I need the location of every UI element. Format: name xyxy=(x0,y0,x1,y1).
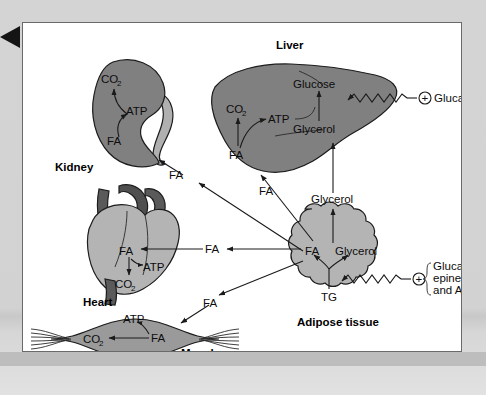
transport-fa-to-liver: FA xyxy=(259,175,313,241)
fa-to-heart-label: FA xyxy=(205,243,219,255)
liver-name-label: Liver xyxy=(276,39,304,51)
adipose-stimulus-line3: and ACTH xyxy=(433,284,461,296)
heart-co2-subscript: 2 xyxy=(131,284,136,293)
liver-atp-label: ATP xyxy=(268,113,290,125)
adipose-stimulus-line1: Glucagon, xyxy=(433,260,461,272)
kidney-fa-label: FA xyxy=(107,135,121,147)
muscle-name-label: Muscle xyxy=(181,347,220,351)
heart-co2-label: CO xyxy=(115,278,132,290)
adipose-tg-label: TG xyxy=(321,291,337,303)
liver-fa-label: FA xyxy=(229,149,243,161)
organ-liver: FA ATP CO 2 Glucose Glycerol Liver xyxy=(212,39,397,172)
adipose-stimulus-line2: epinephrine, xyxy=(433,272,461,284)
figure-panel: FA ATP CO 2 Kidney FA ATP xyxy=(22,22,462,352)
organ-kidney: FA ATP CO 2 Kidney xyxy=(55,60,173,173)
adipose-name-label: Adipose tissue xyxy=(297,316,379,328)
muscle-atp-label: ATP xyxy=(123,313,145,325)
liver-stimulus-label: Glucagon xyxy=(434,92,461,104)
organ-adipose-tissue: FA Glycerol TG Adipose tissue xyxy=(289,202,379,328)
liver-glucose-label: Glucose xyxy=(293,78,335,90)
organ-muscle: FA ATP CO 2 Muscle xyxy=(31,313,239,351)
muscle-co2-subscript: 2 xyxy=(99,339,104,348)
fa-to-muscle-label: FA xyxy=(203,297,217,309)
left-pointing-triangle-icon xyxy=(0,26,20,48)
kidney-co2-subscript: 2 xyxy=(117,79,122,88)
adipose-stimulus-sign: + xyxy=(416,273,423,285)
adipose-fa-label: FA xyxy=(305,245,319,257)
metabolism-diagram: FA ATP CO 2 Kidney FA ATP xyxy=(23,23,461,351)
muscle-co2-label: CO xyxy=(83,333,100,345)
kidney-co2-label: CO xyxy=(101,73,118,85)
transport-fa-to-muscle: FA xyxy=(181,261,303,323)
heart-name-label: Heart xyxy=(83,296,113,308)
liver-stimulus-sign: + xyxy=(422,92,429,104)
liver-co2-subscript: 2 xyxy=(242,109,247,118)
organ-heart: FA ATP CO 2 Heart xyxy=(83,185,179,308)
liver-glycerol-label: Glycerol xyxy=(293,123,335,135)
transport-fa-to-kidney: FA xyxy=(159,160,303,251)
kidney-name-label: Kidney xyxy=(55,161,94,173)
muscle-fa-label: FA xyxy=(151,332,165,344)
adipose-glycerol-label: Glycerol xyxy=(335,245,377,257)
kidney-atp-label: ATP xyxy=(126,105,148,117)
fa-to-liver-label: FA xyxy=(259,185,273,197)
heart-atp-label: ATP xyxy=(143,261,165,273)
heart-fa-label: FA xyxy=(119,245,133,257)
page-background: FA ATP CO 2 Kidney FA ATP xyxy=(0,0,486,395)
page-bottom-band xyxy=(0,352,486,366)
liver-co2-label: CO xyxy=(226,103,243,115)
glycerol-to-liver-label: Glycerol xyxy=(311,193,353,205)
fa-to-kidney-label: FA xyxy=(169,169,183,181)
